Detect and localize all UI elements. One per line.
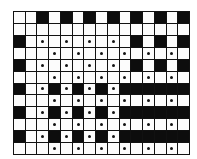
empty-cell [120, 36, 131, 47]
filled-cell [96, 107, 107, 118]
dot-icon [77, 99, 80, 102]
filled-cell [178, 84, 189, 95]
empty-cell [37, 24, 48, 35]
filled-cell [37, 12, 48, 23]
dot-icon [53, 147, 56, 150]
empty-cell [143, 36, 154, 47]
empty-cell [61, 143, 72, 154]
dot-icon [53, 76, 56, 79]
filled-cell [143, 131, 154, 142]
dotted-cell [167, 95, 178, 106]
empty-cell [73, 36, 84, 47]
dotted-cell [37, 131, 48, 142]
dot-icon [65, 40, 68, 43]
empty-cell [61, 95, 72, 106]
empty-cell [96, 60, 107, 71]
empty-cell [14, 72, 25, 83]
dotted-cell [73, 48, 84, 59]
empty-cell [61, 24, 72, 35]
empty-cell [73, 12, 84, 23]
empty-cell [131, 119, 142, 130]
dot-icon [100, 147, 103, 150]
dot-icon [123, 99, 126, 102]
dotted-cell [96, 119, 107, 130]
dotted-cell [108, 36, 119, 47]
empty-cell [61, 48, 72, 59]
filled-cell [143, 107, 154, 118]
empty-cell [26, 143, 37, 154]
dotted-cell [96, 48, 107, 59]
empty-cell [108, 119, 119, 130]
dot-icon [77, 123, 80, 126]
empty-cell [14, 24, 25, 35]
dot-icon [100, 76, 103, 79]
dot-icon [41, 87, 44, 90]
empty-cell [14, 143, 25, 154]
filled-cell [178, 60, 189, 71]
empty-cell [26, 119, 37, 130]
dot-icon [123, 52, 126, 55]
empty-cell [108, 95, 119, 106]
empty-cell [49, 60, 60, 71]
dot-icon [112, 135, 115, 138]
dot-icon [170, 99, 173, 102]
filled-cell [131, 60, 142, 71]
empty-cell [108, 72, 119, 83]
empty-cell [84, 143, 95, 154]
empty-cell [73, 60, 84, 71]
dot-icon [65, 64, 68, 67]
filled-cell [49, 107, 60, 118]
empty-cell [84, 48, 95, 59]
filled-cell [167, 107, 178, 118]
dot-icon [65, 135, 68, 138]
dotted-cell [143, 95, 154, 106]
dot-icon [170, 52, 173, 55]
dotted-cell [120, 95, 131, 106]
filled-cell [178, 131, 189, 142]
empty-cell [167, 12, 178, 23]
dotted-cell [120, 48, 131, 59]
filled-cell [14, 36, 25, 47]
dotted-cell [49, 143, 60, 154]
dotted-cell [143, 143, 154, 154]
dot-icon [65, 87, 68, 90]
dotted-cell [49, 48, 60, 59]
empty-cell [84, 119, 95, 130]
empty-cell [108, 48, 119, 59]
empty-cell [178, 119, 189, 130]
dot-icon [123, 123, 126, 126]
empty-cell [14, 12, 25, 23]
filled-cell [155, 12, 166, 23]
filled-cell [155, 84, 166, 95]
filled-cell [14, 60, 25, 71]
dotted-cell [49, 119, 60, 130]
empty-cell [155, 95, 166, 106]
empty-cell [73, 24, 84, 35]
empty-cell [26, 48, 37, 59]
filled-cell [120, 131, 131, 142]
dotted-cell [84, 107, 95, 118]
dotted-cell [73, 95, 84, 106]
empty-cell [155, 48, 166, 59]
dot-icon [88, 40, 91, 43]
dotted-cell [143, 48, 154, 59]
dotted-cell [84, 36, 95, 47]
empty-cell [155, 72, 166, 83]
dotted-cell [120, 119, 131, 130]
dotted-cell [143, 119, 154, 130]
dotted-cell [84, 84, 95, 95]
filled-cell [155, 107, 166, 118]
dot-icon [112, 64, 115, 67]
dotted-cell [37, 36, 48, 47]
dotted-cell [108, 84, 119, 95]
dot-icon [77, 147, 80, 150]
empty-cell [49, 36, 60, 47]
dot-icon [88, 111, 91, 114]
dot-icon [53, 52, 56, 55]
dot-icon [170, 123, 173, 126]
empty-cell [61, 72, 72, 83]
filled-cell [14, 131, 25, 142]
dotted-cell [37, 107, 48, 118]
dotted-cell [167, 48, 178, 59]
empty-cell [49, 24, 60, 35]
